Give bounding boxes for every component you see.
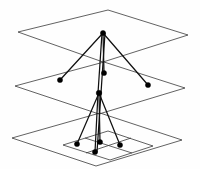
node-bottom-center — [97, 139, 102, 144]
network-diagram-figure — [0, 0, 200, 169]
node-bottom-front — [92, 149, 97, 154]
node-mid-left — [57, 77, 62, 82]
node-mid-right — [145, 82, 150, 87]
node-bottom-right — [117, 142, 122, 147]
edge-midhub-to-bot-right — [99, 93, 120, 145]
node-bottom-left — [74, 141, 79, 146]
diagram-canvas — [0, 0, 200, 169]
node-mid-center — [101, 70, 106, 75]
node-top-hub — [100, 30, 105, 35]
node-mid-hub — [96, 90, 102, 96]
edges-group — [60, 33, 148, 152]
edge-hub-to-mid-right — [103, 33, 148, 85]
edge-hub-to-mid-left — [60, 33, 103, 80]
